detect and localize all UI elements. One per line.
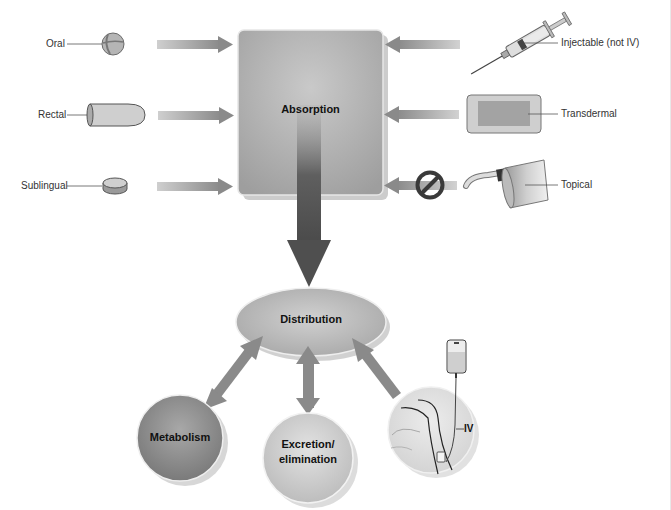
pharmacokinetics-diagram [0, 0, 671, 510]
distribution-label: Distribution [236, 313, 386, 325]
route-label-topical: Topical [561, 179, 592, 190]
arrow-sublingual [157, 178, 233, 195]
sublingual-tablet-icon [67, 178, 127, 194]
absorption-label: Absorption [238, 103, 383, 115]
metabolism-label: Metabolism [137, 431, 223, 443]
route-label-rectal: Rectal [38, 109, 66, 120]
route-label-sublingual: Sublingual [21, 180, 68, 191]
route-label-transdermal: Transdermal [561, 108, 617, 119]
suppository-icon [67, 104, 145, 126]
route-label-injectable: Injectable (not IV) [561, 37, 639, 48]
arrow-injectable [385, 36, 460, 53]
route-label-oral: Oral [46, 38, 65, 49]
patch-icon [467, 95, 558, 133]
iv-drip-arm-icon [388, 340, 479, 478]
excretion-label-line2: elimination [263, 453, 353, 465]
ointment-tube-icon [466, 160, 558, 209]
excretion-label-line1: Excretion/ [263, 438, 353, 450]
iv-label: IV [464, 423, 473, 434]
distribution-metabolism-arrow [203, 336, 263, 410]
pill-tablet-icon [67, 33, 124, 55]
arrow-oral [157, 36, 233, 53]
arrow-transdermal [384, 106, 459, 123]
syringe-icon [467, 10, 573, 82]
arrow-rectal [158, 107, 234, 124]
